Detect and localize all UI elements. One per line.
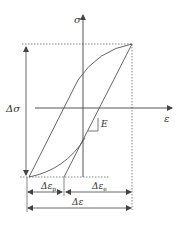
dotted-guides: [20, 44, 132, 210]
hysteresis-diagram: σ ε E Δσ Δεp Δεe Δε: [0, 0, 185, 227]
modulus-label: E: [100, 119, 108, 129]
total-strain-label: Δε: [71, 197, 83, 207]
plastic-strain-label: Δεp: [40, 181, 56, 193]
sigma-axis-label: σ: [74, 14, 82, 25]
epsilon-axis-label: ε: [164, 113, 169, 124]
hysteresis-loop: [29, 44, 132, 177]
elastic-strain-label: Δεe: [91, 181, 107, 192]
stress-range-label: Δσ: [5, 103, 21, 114]
